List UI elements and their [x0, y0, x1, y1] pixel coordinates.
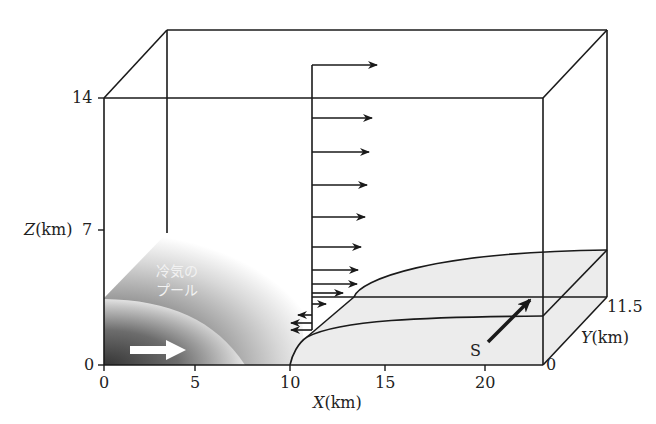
x-axis-unit: (km): [324, 393, 361, 412]
s-label: S: [470, 343, 481, 359]
box-top-right-diagonal: [543, 30, 607, 98]
cold-pool-label-line1: 冷気の: [156, 262, 198, 281]
z-tick-7: 7: [82, 222, 92, 238]
y-axis-unit: (km): [592, 328, 629, 347]
y-tick-0: 0: [546, 357, 556, 373]
z-tick-0: 0: [84, 357, 94, 373]
x-tick-0: 0: [99, 375, 109, 391]
cold-pool-label: 冷気の プール: [156, 262, 198, 300]
box-top-left-diagonal: [104, 30, 167, 98]
z-axis-var: Z: [24, 220, 35, 239]
z-axis-label: Z(km): [24, 222, 72, 238]
x-tick-20: 20: [475, 375, 495, 391]
x-tick-5: 5: [190, 375, 200, 391]
z-tick-14: 14: [72, 90, 92, 106]
x-tick-15: 15: [375, 375, 395, 391]
cold-pool: [104, 233, 305, 365]
y-axis-var: Y: [581, 328, 592, 347]
x-tick-10: 10: [280, 375, 300, 391]
y-axis-label: Y(km): [581, 330, 629, 346]
cold-pool-label-line2: プール: [156, 281, 198, 300]
diagram-canvas: [0, 0, 656, 424]
z-axis-unit: (km): [35, 220, 72, 239]
x-axis-label: X(km): [313, 395, 362, 411]
y-tick-11-5: 11.5: [607, 299, 643, 315]
x-axis-var: X: [313, 393, 324, 412]
